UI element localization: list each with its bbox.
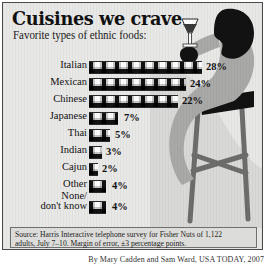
bar-cajun: [89, 163, 98, 176]
chart-row: Chinese 22%: [3, 93, 263, 110]
page-subtitle: Favorite types of ethnic foods:: [13, 29, 147, 41]
category-label: Other: [3, 178, 87, 189]
infographic-root: Cuisines we crave Favorite types of ethn…: [0, 0, 267, 271]
chart-row: Indian 3%: [3, 144, 263, 161]
chart-row: Italian 28%: [3, 59, 263, 76]
category-label: Japanese: [3, 110, 87, 121]
category-label: Thai: [3, 127, 87, 138]
value-label: 2%: [102, 163, 118, 174]
chart-row: Cajun 2%: [3, 161, 263, 178]
credit-line: By Mary Cadden and Sam Ward, USA TODAY, …: [88, 255, 264, 264]
chart-panel: Cuisines we crave Favorite types of ethn…: [2, 2, 263, 250]
bar-none-dont-know: [89, 201, 106, 214]
bar-italian: [89, 61, 202, 74]
bar-indian: [89, 146, 102, 159]
value-label: 28%: [206, 61, 227, 72]
category-label: None/don't know: [3, 191, 87, 210]
chart-row: Mexican 24%: [3, 76, 263, 93]
category-label: Mexican: [3, 76, 87, 87]
category-label: Chinese: [3, 93, 87, 104]
value-label: 3%: [106, 146, 122, 157]
value-label: 24%: [190, 78, 211, 89]
value-label: 4%: [112, 180, 128, 191]
bar-thai: [89, 129, 110, 142]
bar-japanese: [89, 112, 118, 125]
page-title: Cuisines we crave: [12, 8, 182, 28]
value-label: 5%: [115, 129, 131, 140]
category-label: Italian: [3, 59, 87, 70]
value-label: 7%: [124, 112, 140, 123]
bar-other: [89, 180, 106, 193]
chart-row: Thai 5%: [3, 127, 263, 144]
chart-row: Japanese 7%: [3, 110, 263, 127]
category-label: Indian: [3, 144, 87, 155]
value-label: 22%: [182, 95, 203, 106]
bar-chinese: [89, 95, 178, 108]
category-label: Cajun: [3, 161, 87, 172]
value-label: 4%: [112, 201, 128, 212]
chart-row: None/don't know 4%: [3, 195, 263, 212]
source-note-box: Source: Harris Interactive telephone sur…: [10, 227, 257, 248]
source-line-2: adults, July 7–10. Margin of error, ±3 p…: [15, 240, 252, 249]
bar-mexican: [89, 78, 186, 91]
bar-chart: Italian 28% Mexican 24% Chinese 22% Japa…: [3, 59, 263, 224]
